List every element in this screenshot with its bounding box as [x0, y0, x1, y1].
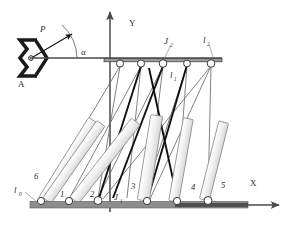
label-l1-sub: 1	[174, 76, 177, 82]
upper-joint	[207, 60, 215, 68]
link-label-5: 5	[221, 180, 225, 190]
label-l2-main: l	[203, 35, 206, 45]
slider-link-1	[43, 121, 105, 204]
label-l1-main: l	[170, 70, 173, 80]
label-l0: l 0	[14, 185, 22, 197]
lower-joint	[173, 197, 180, 204]
ground-rail-group	[30, 202, 248, 209]
upper-joint	[159, 60, 167, 68]
label-l0-main: l	[14, 185, 17, 195]
force-label-p: P	[39, 24, 46, 34]
axis-label-y: Y	[129, 18, 136, 28]
lower-joint	[143, 197, 150, 204]
angle-label-alpha: α	[81, 47, 86, 57]
link-label-6: 6	[34, 171, 39, 181]
label-l2-sub: 2	[207, 41, 210, 47]
label-j1-sub: 1	[120, 198, 123, 204]
axis-group	[30, 12, 279, 212]
link-label-3: 3	[130, 181, 135, 191]
link-label-1: 1	[60, 189, 64, 199]
label-l0-sub: 0	[19, 191, 22, 197]
label-j1-main: J	[114, 192, 119, 202]
lower-joint	[65, 197, 72, 204]
label-l1: l 1	[170, 70, 177, 82]
slider-link-4	[169, 118, 193, 202]
label-j2: J 2	[164, 36, 173, 48]
upper-joint	[137, 60, 144, 67]
lower-joint	[204, 197, 212, 205]
mechanism-figure: Y X A P α 6 1 2 3 4 5 l 0 l 1 l 2	[0, 0, 292, 227]
link-label-2: 2	[90, 189, 95, 199]
ground-rail-dark-segment	[175, 203, 248, 207]
support-label-a: A	[18, 79, 25, 89]
angle-arc-alpha	[62, 25, 77, 58]
leader-l2	[209, 44, 213, 57]
upper-joint	[116, 60, 123, 67]
lower-joint	[94, 197, 102, 205]
lower-joint	[37, 197, 44, 204]
figure-canvas: Y X A P α 6 1 2 3 4 5 l 0 l 1 l 2	[0, 0, 292, 227]
label-j2-main: J	[164, 36, 169, 46]
text-labels-group: Y X A P α 6 1 2 3 4 5 l 0 l 1 l 2	[14, 18, 257, 204]
upper-joint	[184, 60, 191, 67]
axis-label-x: X	[250, 178, 257, 188]
label-j2-sub: 2	[170, 42, 173, 48]
link-label-4: 4	[191, 182, 196, 192]
label-l2: l 2	[203, 35, 210, 47]
